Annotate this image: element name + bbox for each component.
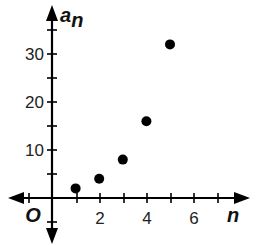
y-axis-title-sub: n: [71, 9, 83, 31]
data-point: [141, 116, 151, 126]
y-tick-label: 20: [25, 93, 44, 112]
axes: [14, 14, 240, 235]
x-tick-label: 2: [95, 209, 104, 228]
y-axis-title-main: a: [60, 4, 71, 26]
x-tick-label: 6: [189, 209, 198, 228]
origin-label: O: [25, 204, 41, 226]
x-axis-title: n: [227, 204, 239, 226]
data-point: [71, 183, 81, 193]
x-axis-arrow-right-icon: [234, 192, 250, 204]
y-tick-label: 10: [25, 141, 44, 160]
y-axis-arrow-up-icon: [46, 5, 58, 21]
x-tick-label: 4: [142, 209, 151, 228]
y-tick-label: 30: [25, 45, 44, 64]
x-axis-arrow-left-icon: [8, 192, 24, 204]
y-axis-title: an: [60, 4, 83, 31]
data-point: [118, 155, 128, 165]
y-axis-arrow-down-icon: [46, 228, 58, 244]
data-point: [94, 174, 104, 184]
data-point: [165, 39, 175, 49]
data-points: [71, 39, 175, 193]
scatter-plot: 2 4 6 10 20 30 O n an: [0, 0, 262, 246]
